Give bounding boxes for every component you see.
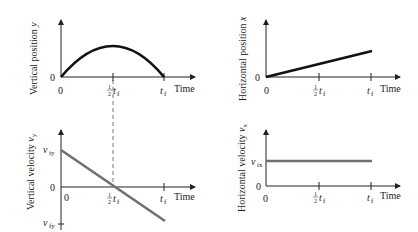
y-axis-label: Horizontal velocity vx	[236, 124, 249, 212]
vix-label: v	[251, 156, 256, 167]
viy-label: v	[43, 144, 48, 155]
time-label: Time	[380, 190, 401, 201]
vix-sub: ix	[257, 161, 263, 169]
tf-label: t	[367, 85, 370, 96]
y-zero: 0	[255, 72, 260, 83]
projectile-motion-graphs: 0 0 1 2 t f t f Time Vertical position y…	[0, 0, 418, 232]
viy-sub: iy	[49, 149, 55, 157]
panel-vertical-position: 0 0 1 2 t f t f Time Vertical position y	[28, 20, 195, 98]
y-axis-label: Vertical velocity vy	[25, 133, 38, 210]
half-den: 2	[108, 91, 111, 97]
half-den: 2	[314, 91, 317, 97]
y-zero: 0	[50, 72, 55, 83]
y-axis-label: Vertical position y	[28, 22, 39, 95]
x-zero: 0	[58, 85, 63, 96]
half-num: 1	[108, 84, 111, 90]
half-t-sub: f	[117, 198, 120, 206]
half-t: t	[113, 85, 116, 96]
panel-horizontal-position: 0 0 1 2 t f t f Time Horizontal position…	[237, 16, 401, 101]
half-t: t	[319, 85, 322, 96]
time-label: Time	[174, 191, 195, 202]
y-zero: 0	[256, 181, 261, 192]
panel-vertical-velocity: v iy v fy 0 0 1 2 t f t f Time Vertical …	[25, 130, 195, 230]
tf-sub: f	[371, 90, 374, 98]
half-num: 1	[314, 191, 317, 197]
x-zero: 0	[264, 85, 269, 96]
half-num: 1	[314, 84, 317, 90]
half-t: t	[319, 192, 322, 203]
half-t: t	[113, 193, 116, 204]
panel-horizontal-velocity: v ix 0 0 1 2 t f t f Time Horizontal vel…	[236, 124, 401, 212]
half-t-sub: f	[117, 90, 120, 98]
y-zero: 0	[50, 182, 55, 193]
half-t-sub: f	[323, 90, 326, 98]
tf-label: t	[367, 192, 370, 203]
x-zero: 0	[64, 192, 69, 203]
tf-sub: f	[371, 197, 374, 205]
vfy-sub: fy	[49, 222, 55, 230]
tf-label: t	[160, 85, 163, 96]
half-t-sub: f	[323, 197, 326, 205]
time-label: Time	[174, 83, 195, 94]
x-zero: 0	[263, 193, 268, 204]
y-axis-label: Horizontal position x	[237, 16, 248, 101]
tf-label: t	[160, 193, 163, 204]
half-den: 2	[108, 199, 111, 205]
half-num: 1	[108, 192, 111, 198]
time-label: Time	[380, 83, 401, 94]
half-den: 2	[314, 198, 317, 204]
tf-sub: f	[164, 90, 167, 98]
tf-sub: f	[164, 198, 167, 206]
parabola-curve	[61, 46, 164, 77]
vfy-label: v	[43, 217, 48, 228]
